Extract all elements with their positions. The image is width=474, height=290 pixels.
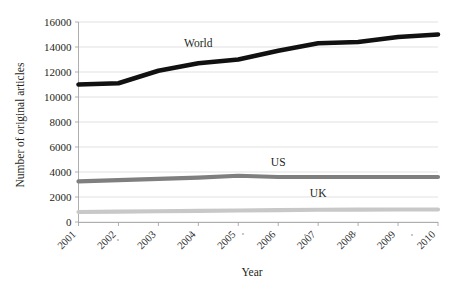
x-tick-label: 2001 bbox=[55, 229, 78, 252]
scan-speck bbox=[304, 234, 306, 236]
y-tick-label: 6000 bbox=[50, 141, 73, 153]
x-tick-label: 2005 bbox=[215, 229, 238, 252]
series-line-uk bbox=[79, 210, 439, 213]
series-label-uk: UK bbox=[310, 187, 327, 199]
x-tick-label: 2004 bbox=[175, 228, 198, 251]
y-tick-labels: 0200040006000800010000120001400016000 bbox=[44, 16, 72, 228]
scan-speck bbox=[411, 234, 413, 236]
x-tick-label: 2006 bbox=[255, 229, 278, 252]
y-tick-label: 4000 bbox=[50, 166, 73, 178]
y-axis-title: Number of original articles bbox=[14, 62, 27, 187]
scan-speck bbox=[242, 233, 244, 235]
x-axis-title: Year bbox=[241, 266, 262, 278]
x-tick-label: 2003 bbox=[135, 229, 158, 252]
chart-container: 0200040006000800010000120001400016000 20… bbox=[0, 0, 474, 290]
series-line-us bbox=[79, 176, 439, 182]
y-tick-label: 2000 bbox=[50, 191, 73, 203]
y-tick-label: 14000 bbox=[44, 41, 72, 53]
series-line-world bbox=[79, 35, 439, 85]
x-tick-labels: 2001200220032004200520062007200820092010 bbox=[55, 228, 437, 251]
x-tick-label: 2007 bbox=[295, 229, 318, 252]
x-tick-label: 2010 bbox=[415, 229, 438, 252]
y-tick-label: 0 bbox=[66, 216, 72, 228]
x-tick-label: 2009 bbox=[375, 229, 398, 252]
series-label-world: World bbox=[184, 37, 213, 49]
y-tick-label: 10000 bbox=[44, 91, 72, 103]
line-chart: 0200040006000800010000120001400016000 20… bbox=[0, 0, 474, 290]
scan-speck bbox=[117, 239, 119, 241]
scan-speck bbox=[189, 231, 191, 233]
series-label-us: US bbox=[271, 156, 286, 168]
x-tick-label: 2002 bbox=[95, 229, 118, 252]
y-tick-label: 12000 bbox=[44, 66, 72, 78]
gridlines-group bbox=[79, 22, 439, 222]
y-tick-label: 8000 bbox=[50, 116, 73, 128]
y-tick-marks bbox=[75, 22, 79, 222]
x-tick-label: 2008 bbox=[335, 229, 358, 252]
data-series-group bbox=[79, 35, 439, 213]
scan-speck bbox=[354, 232, 356, 234]
y-tick-label: 16000 bbox=[44, 16, 72, 28]
